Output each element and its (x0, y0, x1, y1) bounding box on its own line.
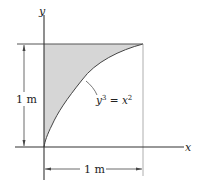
curve-equation-label: y3 = x2 (95, 94, 132, 106)
width-dimension-label: 1 m (84, 163, 105, 176)
y-axis-label: y (38, 5, 46, 18)
height-dimension-label: 1 m (16, 93, 37, 106)
labels-layer: y x 1 m 1 m y3 = x2 (0, 0, 199, 192)
x-axis-label: x (185, 141, 192, 154)
